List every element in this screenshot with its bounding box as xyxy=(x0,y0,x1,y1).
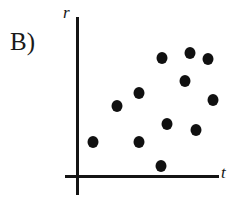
y-axis-line xyxy=(76,17,79,195)
scatter-point xyxy=(208,94,219,106)
scatter-point xyxy=(156,160,167,172)
scatter-point xyxy=(134,87,145,99)
x-axis-line xyxy=(65,175,219,178)
scatter-point xyxy=(185,47,196,59)
x-axis-label: t xyxy=(221,164,226,181)
y-axis-label: r xyxy=(63,4,70,21)
scatter-point xyxy=(203,53,214,65)
scatter-figure: B) r t xyxy=(0,0,236,207)
scatter-point xyxy=(157,52,168,64)
scatter-point xyxy=(180,75,191,87)
scatter-point xyxy=(162,118,173,130)
panel-label: B) xyxy=(10,29,35,54)
scatter-point xyxy=(88,136,99,148)
scatter-point xyxy=(134,136,145,148)
scatter-point xyxy=(191,124,202,136)
scatter-point xyxy=(112,100,123,112)
